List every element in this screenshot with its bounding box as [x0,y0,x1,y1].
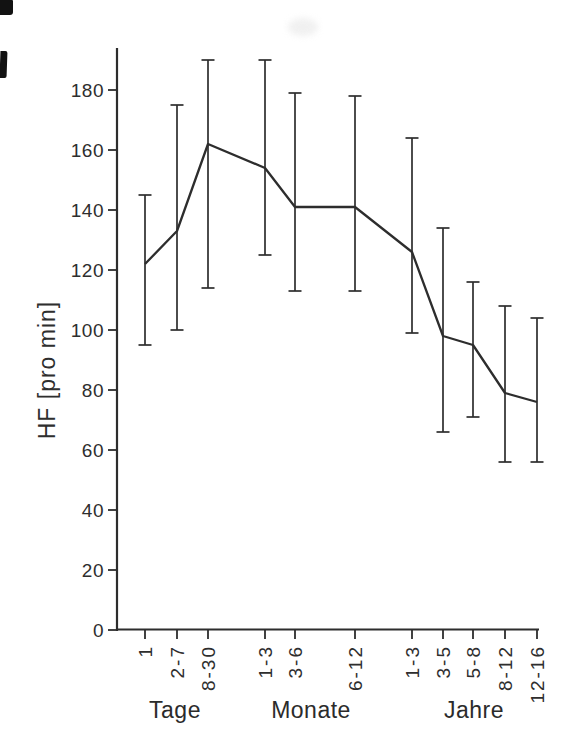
x-tick-label: 3-5 [433,645,454,678]
y-tick-label: 100 [71,320,104,341]
y-tick-label: 180 [71,80,104,101]
scanned-chart-page: 02040608010012014016018012-78-301-33-66-… [0,0,567,739]
x-tick-label: 1-3 [402,645,423,678]
hf-mean-line [145,144,537,402]
x-tick-label: 8-12 [495,645,516,691]
y-tick-label: 140 [71,200,104,221]
y-tick-label: 0 [93,620,104,641]
x-tick-label: 6-12 [345,645,366,691]
x-tick-label: 3-6 [285,645,306,678]
y-tick-label: 20 [82,560,104,581]
y-tick-label: 160 [71,140,104,161]
x-group-label-jahre: Jahre [444,697,504,724]
x-tick-label: 8-30 [198,645,219,691]
x-tick-label: 2-7 [167,645,188,678]
x-tick-label: 1 [135,645,156,658]
y-tick-label: 40 [82,500,104,521]
x-group-label-monate: Monate [271,697,351,724]
y-tick-label: 80 [82,380,104,401]
x-tick-label: 1-3 [255,645,276,678]
x-tick-label: 5-8 [463,645,484,678]
x-tick-label: 12-16 [527,645,548,704]
y-tick-label: 60 [82,440,104,461]
y-axis-title: HF [pro min] [34,301,61,440]
x-group-label-tage: Tage [149,697,201,724]
y-tick-label: 120 [71,260,104,281]
hf-line-chart: 02040608010012014016018012-78-301-33-66-… [0,0,567,739]
